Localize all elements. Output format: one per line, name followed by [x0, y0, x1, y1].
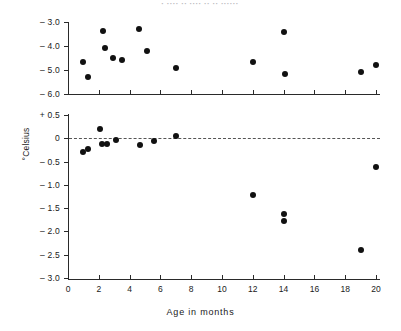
lower-panel-y-tick-label: + 0.5 — [40, 110, 60, 120]
lower-panel-x-tick — [130, 275, 131, 279]
lower-panel-x-tick-label: 8 — [189, 284, 194, 294]
lower-panel-x-tick — [160, 275, 161, 279]
data-point — [173, 133, 179, 139]
data-point — [104, 141, 110, 147]
lower-panel-y-tick — [64, 231, 68, 232]
lower-panel-x-axis — [68, 279, 380, 280]
lower-panel-x-tick-label: 2 — [96, 284, 101, 294]
lower-panel-x-tick — [99, 275, 100, 279]
data-point — [85, 146, 91, 152]
lower-panel-x-tick — [191, 275, 192, 279]
lower-panel-y-tick — [64, 208, 68, 209]
lower-panel-x-tick-label: 0 — [66, 284, 71, 294]
lower-panel-y-tick-label: – 1.0 — [40, 180, 60, 190]
data-point — [281, 211, 287, 217]
lower-panel-y-tick-label: – 2.5 — [40, 250, 60, 260]
lower-panel-x-tick-label: 12 — [248, 284, 257, 294]
data-point — [97, 126, 103, 132]
lower-panel-y-tick — [64, 162, 68, 163]
x-axis-title: Age in months — [0, 307, 401, 317]
lower-panel-x-tick-label: 10 — [217, 284, 226, 294]
lower-panel-x-tick — [284, 275, 285, 279]
y-axis-title-text: °Celsius — [21, 128, 31, 161]
data-point — [113, 137, 119, 143]
data-point — [151, 138, 157, 144]
lower-panel-x-tick-label: 18 — [340, 284, 349, 294]
scatter-figure: · ···· ·· ···· ·· ·· ······ – 3.0– 4.0– … — [0, 0, 401, 331]
lower-panel-x-tick-label: 6 — [158, 284, 163, 294]
lower-panel-x-tick — [222, 275, 223, 279]
data-point — [137, 142, 143, 148]
lower-panel-x-tick-label: 20 — [371, 284, 380, 294]
data-point — [250, 192, 256, 198]
lower-panel-y-tick — [64, 185, 68, 186]
lower-panel-x-tick — [314, 275, 315, 279]
x-axis-title-text: Age in months — [167, 307, 235, 317]
lower-panel-y-tick-label: – 3.0 — [40, 273, 60, 283]
lower-panel-x-tick — [345, 275, 346, 279]
data-point — [358, 247, 364, 253]
lower-panel-x-tick-label: 14 — [279, 284, 288, 294]
lower-panel-x-tick-label: 16 — [310, 284, 319, 294]
lower-panel-x-tick-label: 4 — [127, 284, 132, 294]
lower-panel-y-tick-label: – 0.5 — [40, 157, 60, 167]
lower-panel-y-tick-label: 0 — [55, 133, 60, 143]
lower-panel-y-tick — [64, 138, 68, 139]
lower-panel-y-tick — [64, 255, 68, 256]
data-point — [373, 164, 379, 170]
lower-panel-x-tick — [253, 275, 254, 279]
data-point — [281, 218, 287, 224]
y-axis-title: °Celsius — [21, 114, 31, 174]
lower-panel-y-tick-label: – 1.5 — [40, 203, 60, 213]
lower-panel: + 0.50– 0.5– 1.0– 1.5– 2.0– 2.5– 3.00246… — [0, 0, 401, 331]
lower-panel-y-tick — [64, 115, 68, 116]
lower-panel-y-tick-label: – 2.0 — [40, 226, 60, 236]
lower-panel-x-tick — [68, 275, 69, 279]
lower-panel-x-tick — [376, 275, 377, 279]
